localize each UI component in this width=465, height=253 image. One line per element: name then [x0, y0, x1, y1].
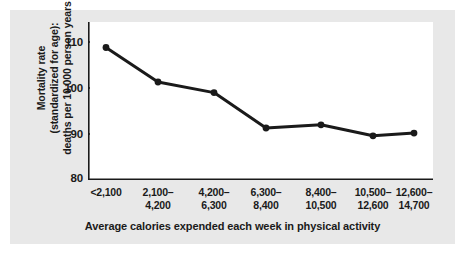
x-tick-label-7-line-1: 12,600– — [384, 186, 444, 199]
data-point-7 — [411, 130, 418, 137]
x-tick-label-5-line-1: 8,400– — [291, 186, 351, 199]
data-point-3 — [211, 89, 218, 96]
x-tick-label-7: 12,600– 14,700 — [384, 186, 444, 211]
y-axis-title-line-1: Mortality rate — [35, 1, 48, 154]
data-line — [106, 48, 414, 136]
x-tick-label-2: 2,100– 4,200 — [128, 186, 188, 211]
x-tick-label-3-line-2: 6,300 — [184, 199, 244, 212]
x-axis-title: Average calories expended each week in p… — [0, 220, 465, 232]
data-point-5 — [318, 121, 325, 128]
x-tick-label-4-line-1: 6,300– — [236, 186, 296, 199]
data-point-2 — [155, 79, 162, 86]
x-tick-label-2-line-2: 4,200 — [128, 199, 188, 212]
x-tick-label-4: 6,300– 8,400 — [236, 186, 296, 211]
x-tick-label-3-line-1: 4,200– — [184, 186, 244, 199]
x-tick-label-4-line-2: 8,400 — [236, 199, 296, 212]
x-tick-label-2-line-1: 2,100– — [128, 186, 188, 199]
x-tick-label-1: <2,100 — [76, 186, 136, 199]
data-point-1 — [103, 44, 110, 51]
chart-figure: Mortality rate (standardized for age): d… — [0, 0, 465, 253]
plot-svg — [88, 22, 433, 180]
x-tick-label-5: 8,400– 10,500 — [291, 186, 351, 211]
y-tick-label-90: 90 — [55, 128, 83, 140]
y-tick-label-110: 110 — [55, 36, 83, 48]
y-tick-label-100: 100 — [55, 82, 83, 94]
x-tick-label-3: 4,200– 6,300 — [184, 186, 244, 211]
data-point-6 — [370, 132, 377, 139]
x-tick-label-1-line-1: <2,100 — [76, 186, 136, 199]
plot-area — [88, 22, 433, 180]
x-tick-label-5-line-2: 10,500 — [291, 199, 351, 212]
data-point-4 — [263, 125, 270, 132]
x-tick-label-7-line-2: 14,700 — [384, 199, 444, 212]
y-tick-label-80: 80 — [55, 172, 83, 184]
